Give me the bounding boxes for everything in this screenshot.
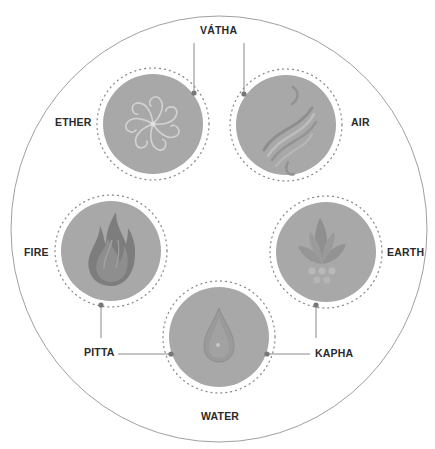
element-earth: [270, 196, 382, 308]
element-label-air: AIR: [351, 117, 370, 128]
element-label-fire: FIRE: [24, 247, 49, 258]
diagram-canvas: [0, 0, 435, 449]
vatha-connectors: [194, 43, 244, 94]
dosha-label-kapha: KAPHA: [315, 348, 353, 359]
dosha-label-pitta: PITTA: [84, 347, 115, 358]
element-label-water: WATER: [201, 411, 239, 422]
element-water: [163, 281, 275, 393]
dosha-element-diagram: VÁTHA PITTA KAPHA ETHER AIR FIRE EARTH W…: [0, 0, 435, 449]
element-fire: [55, 195, 167, 307]
dosha-label-vatha: VÁTHA: [200, 25, 237, 36]
element-ether: [97, 68, 209, 180]
element-air: [230, 69, 342, 181]
element-label-earth: EARTH: [387, 247, 424, 258]
element-label-ether: ETHER: [55, 117, 92, 128]
